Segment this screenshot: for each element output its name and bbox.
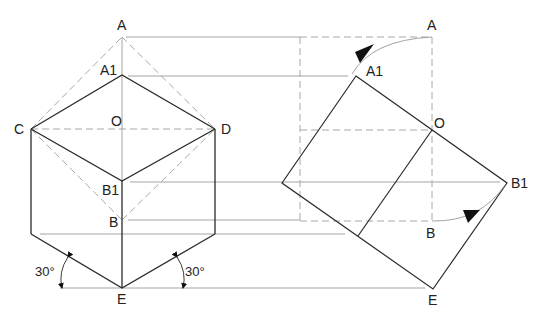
- label-e-left: E: [117, 292, 126, 306]
- label-a1-left: A1: [100, 63, 117, 77]
- label-b1-left: B1: [102, 183, 119, 197]
- diagram-canvas: [0, 0, 541, 325]
- angle-label-left: 30°: [35, 265, 55, 278]
- label-a1-right: A1: [366, 64, 383, 78]
- rotated-view: [282, 37, 507, 289]
- label-b-left: B: [109, 215, 118, 229]
- label-o-left: O: [111, 114, 122, 128]
- label-a-left: A: [117, 18, 126, 32]
- angle-label-right: 30°: [185, 265, 205, 278]
- label-o-right: O: [434, 116, 445, 130]
- label-d: D: [221, 122, 231, 136]
- label-a-right: A: [427, 18, 436, 32]
- label-e-right: E: [428, 293, 437, 307]
- label-b1-right: B1: [511, 176, 528, 190]
- isometric-cube: [31, 37, 215, 288]
- label-c: C: [14, 122, 24, 136]
- label-b-right: B: [426, 226, 435, 240]
